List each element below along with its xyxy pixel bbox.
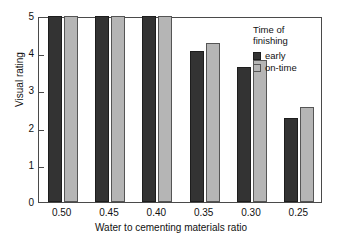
- bar[interactable]: [142, 16, 156, 202]
- y-tick-label: 0: [14, 198, 34, 208]
- y-tick-mark: [39, 130, 44, 131]
- x-tick-label: 0.30: [231, 207, 271, 218]
- legend-swatch-early: [253, 52, 261, 60]
- legend: Time of finishing early on-time: [253, 24, 317, 75]
- y-tick-label: 5: [14, 12, 34, 22]
- y-tick-label: 4: [14, 49, 34, 59]
- bar[interactable]: [206, 43, 220, 202]
- bar[interactable]: [111, 16, 125, 202]
- y-tick-mark: [39, 55, 44, 56]
- bar[interactable]: [158, 16, 172, 202]
- x-axis-tick-labels: 0.500.450.400.350.300.25: [38, 207, 322, 219]
- legend-entry-on-time[interactable]: on-time: [253, 63, 317, 73]
- bar[interactable]: [253, 60, 267, 202]
- y-axis-tick-labels: 012345: [14, 17, 34, 203]
- legend-swatch-on-time: [253, 64, 261, 72]
- bar-group: [142, 18, 172, 202]
- x-tick-label: 0.40: [136, 207, 176, 218]
- x-axis-title: Water to cementing materials ratio: [0, 222, 342, 233]
- bar[interactable]: [190, 51, 204, 202]
- y-tick-label: 3: [14, 86, 34, 96]
- y-tick-label: 2: [14, 124, 34, 134]
- legend-label-early: early: [265, 51, 286, 61]
- bar[interactable]: [48, 16, 62, 202]
- y-tick-mark: [39, 167, 44, 168]
- bar[interactable]: [95, 16, 109, 202]
- x-tick-label: 0.45: [89, 207, 129, 218]
- bar-group: [48, 18, 78, 202]
- x-tick-label: 0.35: [184, 207, 224, 218]
- bar-group: [190, 18, 220, 202]
- bar[interactable]: [64, 16, 78, 202]
- x-tick-label: 0.50: [42, 207, 82, 218]
- legend-label-on-time: on-time: [265, 63, 297, 73]
- bar-chart: Visual rating 012345 Time of finishing e…: [0, 0, 342, 246]
- bar[interactable]: [237, 67, 251, 202]
- bar[interactable]: [284, 118, 298, 202]
- x-tick-label: 0.25: [278, 207, 318, 218]
- y-tick-label: 1: [14, 161, 34, 171]
- bar[interactable]: [300, 107, 314, 202]
- y-tick-mark: [39, 92, 44, 93]
- legend-title: Time of finishing: [253, 24, 317, 46]
- bar-group: [95, 18, 125, 202]
- legend-entry-early[interactable]: early: [253, 51, 317, 61]
